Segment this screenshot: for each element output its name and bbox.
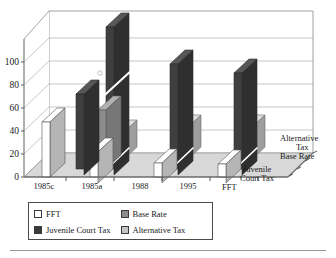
depth-label-juvenile-court-tax-line2: Court Tax — [240, 173, 275, 183]
legend-item-alternative-tax[interactable]: Alternative Tax — [121, 226, 208, 235]
legend-item-juvenile-court-tax[interactable]: Juvenile Court Tax — [34, 226, 121, 235]
bar-1985c-juvenile-court-tax — [76, 80, 99, 175]
y-tick-40: 40 — [10, 126, 20, 136]
legend-swatch-fft — [34, 210, 42, 218]
depth-label-fft: FFT — [222, 182, 237, 192]
legend-label-alternative-tax: Alternative Tax — [133, 226, 186, 235]
legend-item-fft[interactable]: FFT — [34, 210, 121, 219]
footer-divider — [10, 250, 326, 251]
legend-row-2: Juvenile Court Tax Alternative Tax — [34, 222, 207, 238]
legend-label-juvenile-court-tax: Juvenile Court Tax — [46, 226, 110, 235]
y-tick-100: 100 — [5, 57, 20, 67]
legend-row-1: FFT Base Rate — [34, 206, 207, 222]
plot-area: 100 80 60 40 20 0 — [0, 0, 336, 206]
chart-svg: 100 80 60 40 20 0 — [0, 0, 336, 206]
x-label-1985c: 1985c — [34, 181, 55, 191]
depth-label-base-rate: Base Rate — [280, 151, 314, 161]
legend-label-fft: FFT — [46, 210, 61, 219]
legend-swatch-alternative-tax — [121, 226, 129, 234]
legend-swatch-base-rate — [121, 210, 129, 218]
chart-legend: FFT Base Rate Juvenile Court Tax Alterna… — [28, 202, 213, 240]
x-label-1988: 1988 — [132, 181, 149, 191]
x-label-1985a: 1985a — [82, 181, 103, 191]
chart-figure: 100 80 60 40 20 0 — [0, 0, 336, 258]
legend-label-base-rate: Base Rate — [133, 210, 167, 219]
y-tick-60: 60 — [10, 103, 20, 113]
legend-swatch-juvenile-court-tax — [34, 226, 42, 234]
y-tick-20: 20 — [10, 149, 20, 159]
y-tick-0: 0 — [14, 172, 19, 182]
legend-item-base-rate[interactable]: Base Rate — [121, 210, 208, 219]
y-axis: 100 80 60 40 20 0 — [5, 57, 24, 182]
x-label-1995: 1995 — [180, 181, 197, 191]
y-tick-80: 80 — [10, 80, 20, 90]
